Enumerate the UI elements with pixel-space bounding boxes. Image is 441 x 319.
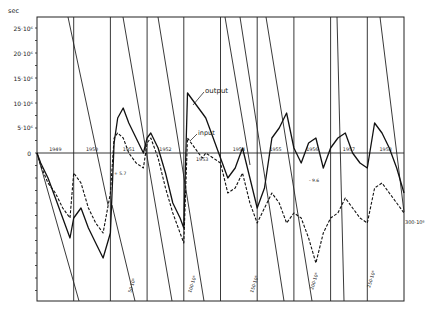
y-unit-label: sec bbox=[8, 7, 19, 15]
output-leader-line bbox=[193, 92, 204, 105]
year-label-1952: 1952 bbox=[159, 147, 171, 152]
diagonal-label: 100·10⁶ bbox=[187, 275, 197, 293]
cumulative-diagonal-line bbox=[225, 17, 250, 165]
end-cumulative-label: 300·10⁶ bbox=[405, 219, 425, 225]
chart: sec 0 25·10⁶ 20·10⁶ 15·10⁶ 10·10⁶ 5·10⁶ … bbox=[0, 0, 441, 319]
cumulative-diagonal-line bbox=[240, 17, 284, 301]
year-label-1950: 1950 bbox=[86, 147, 98, 152]
input-label: input bbox=[198, 129, 215, 137]
year-label-1949: 1949 bbox=[49, 147, 61, 152]
y-axis: sec 0 25·10⁶ 20·10⁶ 15·10⁶ 10·10⁶ 5·10⁶ bbox=[8, 7, 34, 157]
y-tick-20: 20·10⁶ bbox=[13, 50, 33, 57]
small-annotation-1: + 5.7 bbox=[114, 171, 126, 176]
small-annotation-2: - 9.6 bbox=[309, 178, 319, 183]
output-label: output bbox=[205, 87, 228, 95]
diagonal-label: 200·10⁶ bbox=[309, 272, 319, 290]
y-tick-5: 5·10⁶ bbox=[17, 124, 33, 131]
cumulative-diagonal-line bbox=[266, 17, 312, 301]
year-label-1957: 1957 bbox=[343, 147, 355, 152]
y-tick-15: 15·10⁶ bbox=[13, 75, 33, 82]
year-label-1951: 1951 bbox=[123, 147, 135, 152]
y-tick-25: 25·10⁶ bbox=[13, 25, 33, 32]
y-zero-label: 0 bbox=[27, 150, 31, 157]
cumulative-diagonal-line bbox=[37, 153, 79, 301]
diagonal-label: 50·10⁶ bbox=[127, 278, 136, 294]
diagonal-labels: 50·10⁶100·10⁶150·10⁶200·10⁶250·10⁶ bbox=[127, 270, 376, 293]
chart-canvas: sec 0 25·10⁶ 20·10⁶ 15·10⁶ 10·10⁶ 5·10⁶ … bbox=[0, 0, 441, 319]
year-label-1956: 1956 bbox=[306, 147, 318, 152]
input-leader-line bbox=[190, 134, 197, 141]
cumulative-diagonal-line bbox=[337, 17, 344, 301]
y-tick-10: 10·10⁶ bbox=[13, 100, 33, 107]
diagonal-label: 150·10⁶ bbox=[249, 275, 259, 293]
year-label-1955: 1955 bbox=[269, 147, 281, 152]
